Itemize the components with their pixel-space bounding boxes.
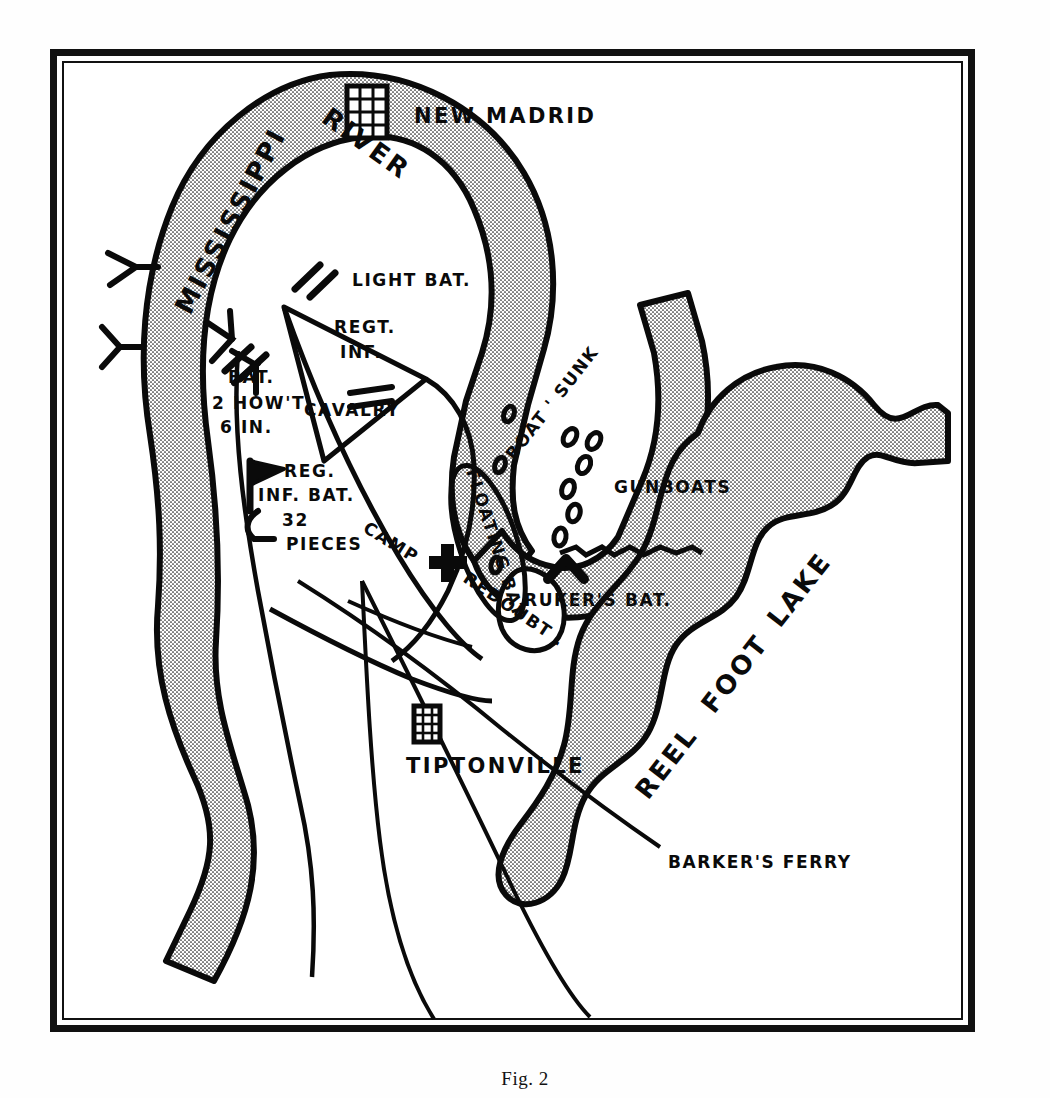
label-lake: LAKE	[761, 547, 837, 633]
label-2-howt: 2 HOW'T	[212, 393, 305, 413]
label-32: 32	[282, 510, 309, 530]
label-inf-bat: INF. BAT.	[258, 485, 355, 505]
label-reg: REG.	[284, 461, 336, 481]
label-pieces: PIECES	[286, 534, 362, 554]
label-new-madrid: NEW MADRID	[414, 104, 596, 128]
label-bat: BAT.	[228, 367, 275, 387]
label-tiptonville: TIPTONVILLE	[406, 754, 585, 778]
label-6-in: 6 IN.	[220, 417, 273, 437]
label-light-bat: LIGHT BAT.	[352, 270, 471, 290]
historical-map-canvas: MISSISSIPPI RIVER NEW MADRID LIGHT BAT. …	[62, 61, 963, 1020]
battery-bracket-icon-32-pieces	[248, 511, 274, 539]
label-rukers-bat: RUKER'S BAT.	[524, 590, 672, 610]
battery-slash-icon-light-bat	[295, 265, 335, 297]
figure-caption: Fig. 2	[0, 1068, 1050, 1090]
figure-page: MISSISSIPPI RIVER NEW MADRID LIGHT BAT. …	[0, 0, 1050, 1098]
label-regt: REGT.	[334, 317, 396, 337]
label-foot: FOOT	[695, 629, 775, 719]
town-grid-icon-tiptonville	[414, 706, 440, 742]
label-camp: CAMP	[360, 517, 423, 567]
label-cavalry: CAVALRY	[304, 400, 400, 420]
label-barkers-ferry: BARKER'S FERRY	[668, 852, 852, 872]
label-gunboats: GUNBOATS	[614, 477, 731, 497]
label-inf: INF.	[340, 342, 383, 362]
